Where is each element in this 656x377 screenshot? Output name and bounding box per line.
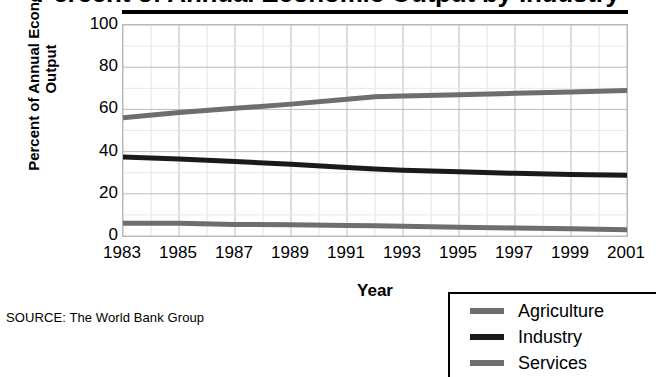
x-tick-label: 1999 bbox=[542, 243, 598, 263]
legend-items: AgricultureIndustryServices bbox=[450, 298, 656, 376]
chart-legend: AgricultureIndustryServices bbox=[448, 292, 656, 377]
legend-label: Industry bbox=[518, 327, 582, 347]
legend-label: Services bbox=[518, 353, 587, 373]
x-tick-label: 1995 bbox=[430, 243, 486, 263]
x-tick-label: 1989 bbox=[262, 243, 318, 263]
legend-swatch-icon bbox=[470, 360, 504, 366]
x-tick-label: 1985 bbox=[150, 243, 206, 263]
plot-area bbox=[122, 24, 628, 237]
y-tick-label: 60 bbox=[82, 99, 118, 116]
x-tick-label: 1997 bbox=[486, 243, 542, 263]
legend-item-services[interactable]: Services bbox=[450, 350, 656, 376]
x-tick-label: 2001 bbox=[598, 243, 654, 263]
y-tick-label: 40 bbox=[82, 142, 118, 159]
x-tick-label: 1987 bbox=[206, 243, 262, 263]
source-note: SOURCE: The World Bank Group bbox=[6, 310, 204, 325]
y-tick-label: 80 bbox=[82, 57, 118, 74]
title-underline-rule bbox=[122, 10, 628, 14]
x-axis-tick-labels: 1983198519871989199119931995199719992001 bbox=[122, 243, 628, 267]
legend-item-agriculture[interactable]: Agriculture bbox=[450, 298, 656, 324]
chart-canvas bbox=[123, 25, 627, 236]
x-tick-label: 1991 bbox=[318, 243, 374, 263]
legend-item-industry[interactable]: Industry bbox=[450, 324, 656, 350]
y-tick-label: 0 bbox=[82, 226, 118, 243]
x-tick-label: 1993 bbox=[374, 243, 430, 263]
legend-swatch-icon bbox=[470, 334, 504, 340]
legend-label: Agriculture bbox=[518, 301, 604, 321]
legend-swatch-icon bbox=[470, 308, 504, 314]
x-tick-label: 1983 bbox=[94, 243, 150, 263]
y-tick-label: 100 bbox=[82, 15, 118, 32]
y-axis-title: Percent of Annual Economic Output bbox=[25, 0, 59, 179]
y-tick-label: 20 bbox=[82, 184, 118, 201]
y-axis-tick-labels: 100806040200 bbox=[78, 0, 118, 260]
